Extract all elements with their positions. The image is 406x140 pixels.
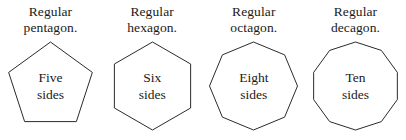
polygon-caption-hexagon: Regular hexagon.: [127, 4, 177, 36]
polygon-shape-decagon: Ten sides: [305, 40, 406, 132]
hexagon-icon: [102, 40, 203, 132]
octagon-icon: [203, 40, 304, 132]
decagon-icon: [305, 40, 406, 132]
polygon-cell-decagon: Regular decagon. Ten sides: [305, 0, 406, 140]
regular-polygons-figure: Regular pentagon. Five sides Regular hex…: [0, 0, 406, 140]
polygon-shape-octagon: Eight sides: [203, 40, 304, 132]
polygon-shape-hexagon: Six sides: [102, 40, 203, 132]
polygon-cell-pentagon: Regular pentagon. Five sides: [0, 0, 101, 140]
pentagon-icon: [0, 40, 101, 132]
polygon-cell-octagon: Regular octagon. Eight sides: [203, 0, 304, 140]
polygon-shape-pentagon: Five sides: [0, 40, 101, 132]
polygon-caption-pentagon: Regular pentagon.: [24, 4, 78, 36]
polygon-caption-decagon: Regular decagon.: [331, 4, 380, 36]
polygon-cell-hexagon: Regular hexagon. Six sides: [102, 0, 203, 140]
polygon-caption-octagon: Regular octagon.: [230, 4, 277, 36]
